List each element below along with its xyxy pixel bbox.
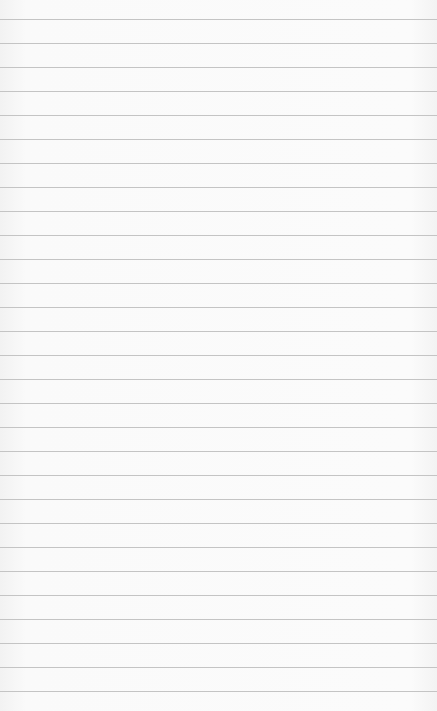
ruled-line	[0, 67, 437, 68]
ruled-line	[0, 427, 437, 428]
ruled-line	[0, 475, 437, 476]
ruled-line	[0, 187, 437, 188]
ruled-line	[0, 547, 437, 548]
ruled-line	[0, 115, 437, 116]
ruled-line	[0, 619, 437, 620]
ruled-line	[0, 91, 437, 92]
ruled-line	[0, 643, 437, 644]
ruled-line	[0, 43, 437, 44]
ruled-line	[0, 331, 437, 332]
ruled-line	[0, 283, 437, 284]
ruled-line	[0, 451, 437, 452]
ruled-line	[0, 139, 437, 140]
lined-paper	[0, 0, 437, 711]
ruled-line	[0, 691, 437, 692]
ruled-line	[0, 571, 437, 572]
ruled-line	[0, 307, 437, 308]
ruled-line	[0, 499, 437, 500]
ruled-line	[0, 235, 437, 236]
ruled-line	[0, 667, 437, 668]
ruled-line	[0, 595, 437, 596]
ruled-line	[0, 379, 437, 380]
ruled-line	[0, 19, 437, 20]
ruled-line	[0, 403, 437, 404]
ruled-line	[0, 259, 437, 260]
ruled-line	[0, 523, 437, 524]
ruled-line	[0, 163, 437, 164]
ruled-line	[0, 355, 437, 356]
ruled-line	[0, 211, 437, 212]
